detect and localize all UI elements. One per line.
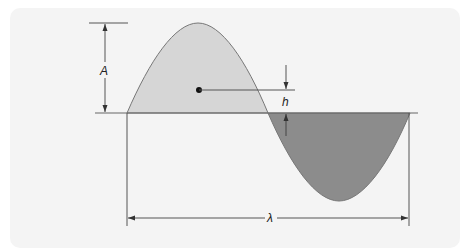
height-arrow-down-icon xyxy=(284,82,289,89)
amplitude-arrow-up-icon xyxy=(103,24,108,31)
wavelength-label: λ xyxy=(266,211,273,225)
wave-crest xyxy=(127,23,268,113)
wavelength-arrow-right-icon xyxy=(401,216,408,221)
amplitude-arrow-down-icon xyxy=(103,105,108,112)
wave-trough xyxy=(268,113,410,201)
height-label: h xyxy=(282,95,289,109)
amplitude-label: A xyxy=(99,64,108,78)
wavelength-arrow-left-icon xyxy=(128,216,135,221)
